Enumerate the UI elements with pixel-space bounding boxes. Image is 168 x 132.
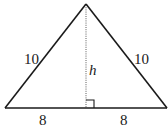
left-side xyxy=(5,4,86,108)
right-side xyxy=(86,4,167,108)
right-side-label: 10 xyxy=(134,51,149,67)
right-base-label: 8 xyxy=(120,112,128,128)
altitude-label: h xyxy=(89,62,97,78)
triangle-diagram: 10 10 h 8 8 xyxy=(0,0,168,132)
left-base-label: 8 xyxy=(39,112,47,128)
right-angle-marker xyxy=(86,100,94,108)
left-side-label: 10 xyxy=(24,51,39,67)
